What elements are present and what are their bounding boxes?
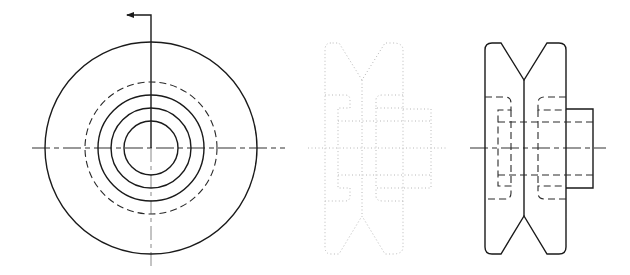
side-view: [470, 43, 606, 254]
technical-drawing: [0, 0, 630, 275]
front-view: [32, 12, 285, 268]
section-arrow-icon: [126, 12, 134, 18]
section-cut-line: [127, 15, 151, 148]
right-hidden-pocket: [538, 97, 566, 110]
ghost-side-view: [308, 43, 447, 254]
